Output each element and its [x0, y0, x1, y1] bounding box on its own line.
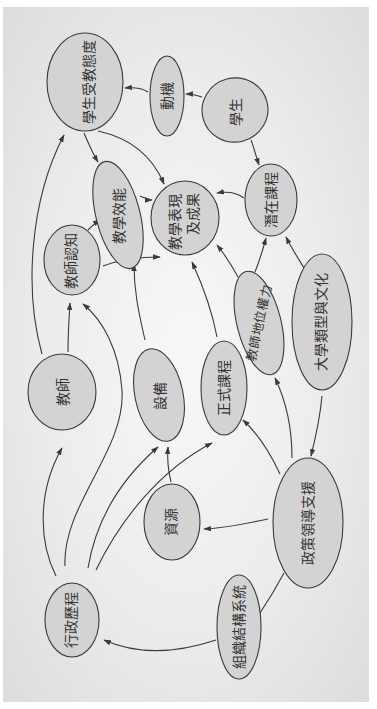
node-equipment: 設備 — [126, 344, 192, 446]
node-student-attitude: 學生受教態度 — [47, 33, 123, 131]
node-label: 大學類型與文化 — [313, 273, 329, 371]
edge-policy-support-to-formal-curriculum — [243, 420, 280, 474]
node-label: 潛在課程 — [263, 172, 279, 228]
edge-policy-support-to-resources — [204, 519, 268, 529]
edge-teacher-status-power-to-teaching-outcomes — [217, 245, 238, 277]
edge-student-attitude-to-teaching-efficacy — [84, 133, 98, 162]
node-teaching-outcomes: 教學表現 及成果 — [151, 181, 219, 255]
edge-teacher-status-power-to-hidden-curriculum — [255, 238, 266, 272]
node-label: 行政歷程 — [63, 592, 79, 648]
edge-teaching-efficacy-to-teaching-outcomes — [140, 196, 152, 200]
node-label: 動機 — [159, 82, 175, 110]
edge-policy-support-to-teacher-status-power — [275, 378, 292, 458]
node-label-line2: 及成果 — [185, 193, 201, 235]
node-administrative-process: 行政歷程 — [45, 583, 99, 657]
node-label: 學生 — [228, 98, 244, 126]
node-university-type-culture: 大學類型與文化 — [292, 254, 352, 390]
concept-diagram: 學生受教態度 動機 學生 教學效能 教學表現 及成果 潛在課程 教師認知 教師地… — [0, 0, 377, 709]
edge-university-culture-to-hidden-curriculum — [286, 237, 304, 268]
edge-teacher-to-teacher-cognition — [68, 303, 70, 352]
node-student: 學生 — [195, 71, 275, 150]
edge-student-to-motivation — [186, 94, 202, 97]
node-label: 資源 — [163, 508, 179, 536]
edge-admin-process-to-teacher — [43, 448, 62, 576]
edge-resources-to-equipment — [168, 447, 171, 482]
node-label: 設備 — [152, 382, 168, 410]
node-policy-leadership-support: 政策領導支援 — [273, 458, 343, 588]
node-label: 教師認知 — [63, 233, 79, 289]
edge-equipment-to-teaching-outcomes — [134, 264, 145, 340]
edge-formal-curriculum-to-teaching-outcomes — [192, 262, 217, 337]
node-hidden-curriculum: 潛在課程 — [245, 164, 297, 236]
node-teacher: 教師 — [28, 354, 96, 430]
node-resources: 資源 — [144, 484, 200, 560]
node-label: 教師 — [55, 378, 71, 406]
node-label: 正式課程 — [216, 360, 232, 416]
edge-motivation-to-student-attitude — [125, 88, 148, 92]
edge-org-structure-to-admin-process — [104, 640, 216, 651]
node-organizational-structure: 組織結構系統 — [217, 575, 261, 679]
node-motivation: 動機 — [150, 56, 184, 136]
edge-org-structure-to-policy-support — [260, 573, 284, 613]
node-formal-curriculum: 正式課程 — [201, 341, 247, 435]
edge-student-to-hidden-curriculum — [251, 140, 259, 165]
node-label: 教學效能 — [111, 188, 127, 244]
node-label-line1: 教學表現 — [167, 194, 183, 250]
node-teacher-cognition: 教師認知 — [44, 225, 100, 295]
edge-admin-process-to-teacher-cognition — [65, 304, 122, 566]
edge-university-culture-to-policy-support — [311, 396, 322, 456]
node-label: 組織結構系統 — [231, 585, 247, 669]
node-label: 政策領導支援 — [300, 481, 316, 565]
node-label: 學生受教態度 — [81, 40, 97, 124]
edge-hidden-curriculum-to-teaching-outcomes — [217, 192, 244, 198]
